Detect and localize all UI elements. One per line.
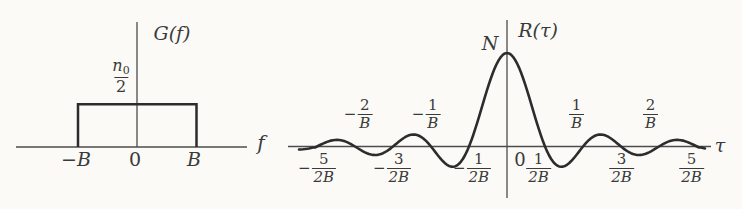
tick-minus-1-over-2B: − 1 2B [453, 151, 491, 186]
peak-label: N [482, 34, 499, 53]
psd-level-denominator: 2 [114, 77, 128, 96]
minus-sign: − [453, 161, 466, 176]
tick-zero-left: 0 [129, 150, 141, 169]
tick-3-over-2B: 3 2B [608, 151, 634, 186]
tick-B: B [187, 150, 201, 169]
tick-minus-1-over-B: − 1 B [412, 97, 441, 132]
left-x-axis-label: f [257, 133, 264, 153]
tick-minus-3-over-2B: − 3 2B [373, 151, 411, 186]
tick-minus-5-over-2B: − 5 2B [298, 151, 336, 186]
minus-sign: − [412, 107, 425, 122]
tick-5-over-2B: 5 2B [678, 151, 704, 186]
tick-1-over-2B: 1 2B [525, 151, 551, 186]
subscript-zero: 0 [123, 64, 130, 77]
minus-sign: − [373, 161, 386, 176]
tick-2-over-B: 2 B [642, 97, 658, 132]
psd-level-numerator: n0 [110, 57, 131, 77]
right-x-axis-label: τ [715, 136, 726, 155]
minus-sign: − [344, 107, 357, 122]
left-y-axis-label: G(f) [153, 24, 190, 43]
figure-psd-and-autocorrelation: G(f) n0 2 −B 0 B f R(τ) N τ 0 − 2 B − 1 … [0, 0, 742, 209]
right-y-axis-label: R(τ) [518, 21, 558, 40]
tick-minus-B: −B [61, 150, 91, 169]
tick-zero-right: 0 [514, 151, 525, 169]
psd-level-fraction: n0 2 [110, 57, 131, 96]
minus-sign: − [298, 161, 311, 176]
tick-1-over-B: 1 B [568, 97, 584, 132]
tick-minus-2-over-B: − 2 B [344, 97, 373, 132]
